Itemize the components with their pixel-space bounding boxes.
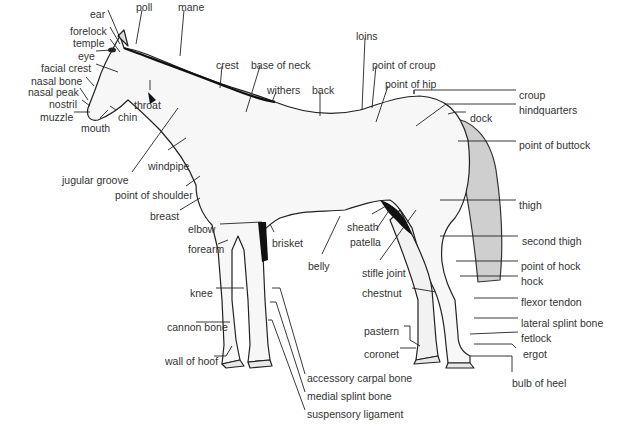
label-brisket: brisket bbox=[272, 237, 303, 249]
label-hindquarters: hindquarters bbox=[519, 104, 577, 116]
label-facial-crest: facial crest bbox=[41, 62, 91, 74]
label-nasal-peak: nasal peak bbox=[28, 86, 79, 98]
label-flexor-tendon: flexor tendon bbox=[521, 296, 582, 308]
label-belly: belly bbox=[308, 260, 330, 272]
label-eye: eye bbox=[78, 50, 95, 62]
horse-anatomy-diagram: earpollmaneforelocktempleeyefacial crest… bbox=[0, 0, 635, 442]
label-jugular-groove: jugular groove bbox=[62, 174, 129, 186]
label-hock: hock bbox=[521, 275, 543, 287]
label-medial-splint-bone: medial splint bone bbox=[307, 390, 392, 402]
label-accessory-carpal-bone: accessory carpal bone bbox=[307, 372, 412, 384]
label-loins: loins bbox=[356, 30, 378, 42]
label-suspensory-ligament: suspensory ligament bbox=[307, 408, 403, 420]
label-base-of-neck: base of neck bbox=[251, 59, 311, 71]
label-withers: withers bbox=[267, 84, 300, 96]
label-thigh: thigh bbox=[519, 199, 542, 211]
label-chestnut: chestnut bbox=[362, 287, 402, 299]
label-fetlock: fetlock bbox=[521, 332, 551, 344]
label-forelock: forelock bbox=[70, 25, 107, 37]
label-crest: crest bbox=[216, 59, 239, 71]
label-mane: mane bbox=[178, 1, 204, 13]
label-dock: dock bbox=[470, 112, 492, 124]
label-poll: poll bbox=[136, 1, 152, 13]
label-point-of-hip: point of hip bbox=[385, 78, 436, 90]
label-windpipe: windpipe bbox=[148, 160, 189, 172]
label-mouth: mouth bbox=[81, 122, 110, 134]
label-cannon-bone: cannon bone bbox=[167, 321, 228, 333]
label-bulb-of-heel: bulb of heel bbox=[512, 377, 566, 389]
label-breast: breast bbox=[150, 210, 179, 222]
label-knee: knee bbox=[190, 287, 213, 299]
label-ear: ear bbox=[90, 8, 105, 20]
label-point-of-hock: point of hock bbox=[521, 260, 581, 272]
label-temple: temple bbox=[73, 37, 105, 49]
label-croup: croup bbox=[519, 89, 545, 101]
label-stifle-joint: stifle joint bbox=[362, 267, 406, 279]
label-ergot: ergot bbox=[523, 348, 547, 360]
label-elbow: elbow bbox=[188, 223, 215, 235]
label-coronet: coronet bbox=[364, 348, 399, 360]
label-second-thigh: second thigh bbox=[522, 235, 582, 247]
label-back: back bbox=[312, 84, 334, 96]
label-throat: throat bbox=[134, 99, 161, 111]
label-sheath: sheath bbox=[347, 221, 379, 233]
label-wall-of-hoof: wall of hoof bbox=[165, 355, 218, 367]
label-forearm: forearm bbox=[188, 243, 224, 255]
label-point-of-croup: point of croup bbox=[372, 59, 436, 71]
label-chin: chin bbox=[118, 111, 137, 123]
label-nostril: nostril bbox=[49, 98, 77, 110]
label-point-of-shoulder: point of shoulder bbox=[115, 189, 193, 201]
label-muzzle: muzzle bbox=[40, 111, 73, 123]
label-point-of-buttock: point of buttock bbox=[519, 139, 590, 151]
label-pastern: pastern bbox=[364, 325, 399, 337]
label-patella: patella bbox=[350, 236, 381, 248]
label-lateral-splint-bone: lateral splint bone bbox=[521, 317, 603, 329]
